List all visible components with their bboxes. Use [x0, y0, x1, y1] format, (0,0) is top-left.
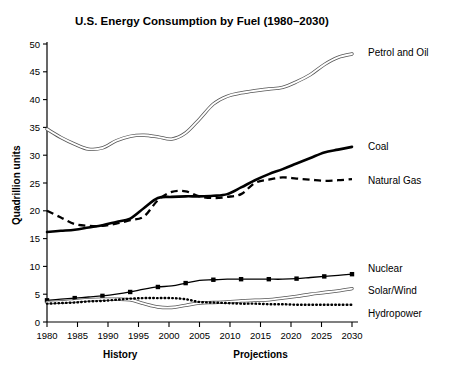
series-marker	[128, 290, 132, 294]
x-tick-label: 2020	[280, 330, 301, 341]
y-tick-label: 50	[29, 39, 40, 50]
series-marker	[350, 272, 354, 276]
x-tick-label: 2010	[219, 330, 240, 341]
series-coal	[47, 147, 352, 232]
chart-title: U.S. Energy Consumption by Fuel (1980–20…	[75, 15, 329, 27]
y-tick-label: 15	[29, 233, 40, 244]
series-label-hydropower: Hydropower	[368, 308, 423, 319]
series-label-coal: Coal	[368, 141, 389, 152]
x-tick-label: 2025	[311, 330, 332, 341]
period-annotation: Projections	[233, 349, 288, 360]
y-tick-label: 25	[29, 178, 40, 189]
y-tick-label: 40	[29, 94, 40, 105]
series-marker	[183, 281, 187, 285]
x-tick-label: 1995	[128, 330, 149, 341]
series-marker	[211, 278, 215, 282]
series-marker	[239, 277, 243, 281]
series-label-nuclear: Nuclear	[368, 263, 403, 274]
x-tick-label: 1980	[36, 330, 57, 341]
x-tick-label: 2015	[250, 330, 271, 341]
period-annotation: History	[103, 349, 138, 360]
energy-consumption-chart: U.S. Energy Consumption by Fuel (1980–20…	[0, 0, 454, 369]
y-tick-label: 35	[29, 122, 40, 133]
series-marker	[100, 294, 104, 298]
y-tick-label: 10	[29, 261, 40, 272]
y-tick-label: 0	[35, 317, 40, 328]
x-tick-label: 2000	[158, 330, 179, 341]
series-marker	[156, 285, 160, 289]
series-label-natural-gas: Natural Gas	[368, 175, 421, 186]
series-line-inner	[47, 54, 352, 149]
series-natural-gas	[47, 177, 352, 226]
series-line-outer	[47, 54, 352, 149]
y-tick-label: 30	[29, 150, 40, 161]
x-tick-label: 1985	[67, 330, 88, 341]
y-tick-label: 45	[29, 66, 40, 77]
series-marker	[294, 276, 298, 280]
series-label-solar-wind: Solar/Wind	[368, 285, 417, 296]
series-line	[47, 147, 352, 232]
series-line	[47, 177, 352, 226]
series-label-petrol-and-oil: Petrol and Oil	[368, 47, 429, 58]
series-marker	[322, 274, 326, 278]
x-tick-label: 2030	[341, 330, 362, 341]
x-tick-label: 1990	[97, 330, 118, 341]
series-petrol-and-oil	[47, 54, 352, 149]
y-axis-label: Quadrillion units	[11, 145, 22, 225]
x-tick-label: 2005	[189, 330, 210, 341]
series-marker	[267, 277, 271, 281]
y-tick-label: 5	[35, 289, 40, 300]
y-tick-label: 20	[29, 205, 40, 216]
chart-container: U.S. Energy Consumption by Fuel (1980–20…	[0, 0, 454, 369]
